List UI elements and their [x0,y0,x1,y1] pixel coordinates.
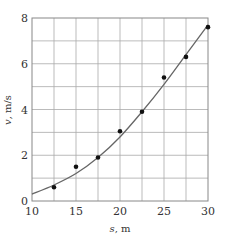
data-point [162,75,167,80]
y-axis-label: v, m/s [2,95,13,125]
chart: 1015202530 02468 s, m v, m/s [0,0,226,237]
data-point [140,109,145,114]
y-tick-label: 2 [21,149,28,162]
x-tick-label: 20 [113,205,127,218]
data-point [74,164,79,169]
y-tick-label: 8 [21,12,28,25]
grid-lines [32,18,208,201]
x-tick-label: 15 [69,205,83,218]
y-tick-label: 6 [21,58,28,71]
x-axis-ticks: 1015202530 [25,205,215,218]
x-axis-label: s, m [110,223,131,234]
data-point [96,155,101,160]
data-points [52,25,211,190]
y-tick-label: 0 [21,195,28,208]
data-point [206,25,211,30]
y-tick-label: 4 [21,104,28,117]
data-point [52,185,57,190]
x-tick-label: 30 [201,205,215,218]
x-tick-label: 25 [157,205,171,218]
data-point [118,129,123,134]
data-point [184,55,189,60]
y-axis-ticks: 02468 [21,12,28,208]
